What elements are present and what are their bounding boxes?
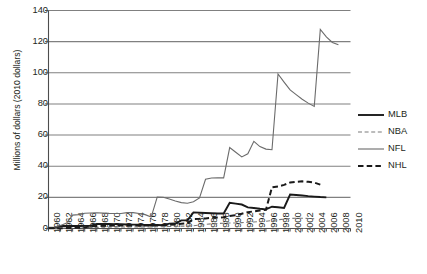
legend-swatch-nfl xyxy=(358,144,384,154)
data-series xyxy=(49,30,339,229)
axis-lines xyxy=(45,11,351,232)
legend-swatch-nhl xyxy=(358,161,384,171)
legend-label: NFL xyxy=(384,144,406,153)
legend-item-nba[interactable]: NBA xyxy=(358,123,427,140)
legend-label: NHL xyxy=(384,161,407,170)
legend: MLBNBANFLNHL xyxy=(358,106,427,174)
legend-swatch-mlb xyxy=(358,110,384,120)
legend-swatch-nba xyxy=(358,127,384,137)
sports-franchise-values-chart: Millions of dollars (2010 dollars) 02040… xyxy=(0,0,427,274)
legend-label: MLB xyxy=(384,110,407,119)
legend-item-nhl[interactable]: NHL xyxy=(358,157,427,174)
legend-label: NBA xyxy=(384,127,407,136)
legend-item-nfl[interactable]: NFL xyxy=(358,140,427,157)
legend-item-mlb[interactable]: MLB xyxy=(358,106,427,123)
